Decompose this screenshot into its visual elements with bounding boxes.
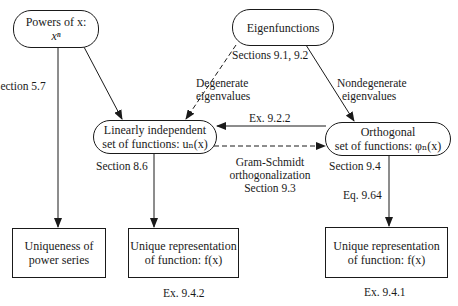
node-unique-representation-right: Unique representation of function: f(x) [325,227,448,278]
label-nondegenerate: Nondegenerate eigenvalues [337,77,407,103]
node-uniqrepright-line2: of function: f(x) [348,253,425,267]
label-degenerate-line2: eigenvalues [196,90,266,103]
node-eigen-line1: Eigenfunctions [247,21,320,35]
node-powers-line1: Powers of x: [26,15,87,29]
label-section-5-7: Section 5.7 [0,80,46,93]
node-linearly-independent: Linearly independent set of functions: u… [93,120,217,154]
node-unique-representation-mid: Unique representation of function: f(x) [128,228,239,278]
label-degenerate: Degenerate eigenvalues [196,77,266,103]
node-uniqrepmid-line1: Unique representation [130,239,236,253]
label-gram-line3: Section 9.3 [226,182,314,195]
node-linind-line1: Linearly independent [104,123,206,137]
node-eigenfunctions: Eigenfunctions [232,9,334,46]
label-sections-9-1-9-2: Sections 9.1, 9.2 [232,49,308,62]
node-ortho-line2: set of functions: φₙ(x) [335,139,441,153]
node-uniqpower-line1: Uniqueness of [25,239,94,253]
label-nondegenerate-line1: Nondegenerate [337,77,407,90]
node-linind-line2: set of functions: uₙ(x) [102,137,208,151]
node-uniqrepmid-line2: of function: f(x) [145,253,222,267]
node-powers-of-x: Powers of x: xⁿ [13,10,99,48]
node-powers-line2: xⁿ [51,29,60,43]
node-uniqpower-line2: power series [29,253,89,267]
label-eq-9-64: Eq. 9.64 [343,189,382,202]
label-section-8-6: Section 8.6 [96,160,148,173]
node-orthogonal: Orthogonal set of functions: φₙ(x) [325,122,451,156]
label-ex-9-4-2: Ex. 9.4.2 [163,287,205,300]
label-degenerate-line1: Degenerate [196,77,266,90]
label-gram-line2: orthogonalization [226,169,314,182]
edge-powers-to-linind [84,47,122,119]
node-uniqueness-power-series: Uniqueness of power series [12,228,106,278]
label-gram-line1: Gram-Schmidt [226,156,314,169]
node-uniqrepright-line1: Unique representation [333,239,439,253]
label-nondegenerate-line2: eigenvalues [337,90,407,103]
label-section-9-4: Section 9.4 [329,160,381,173]
label-ex-9-2-2: Ex. 9.2.2 [249,112,291,125]
label-ex-9-4-1: Ex. 9.4.1 [364,286,406,299]
node-ortho-line1: Orthogonal [361,125,416,139]
label-gram-schmidt: Gram-Schmidt orthogonalization Section 9… [226,156,314,195]
